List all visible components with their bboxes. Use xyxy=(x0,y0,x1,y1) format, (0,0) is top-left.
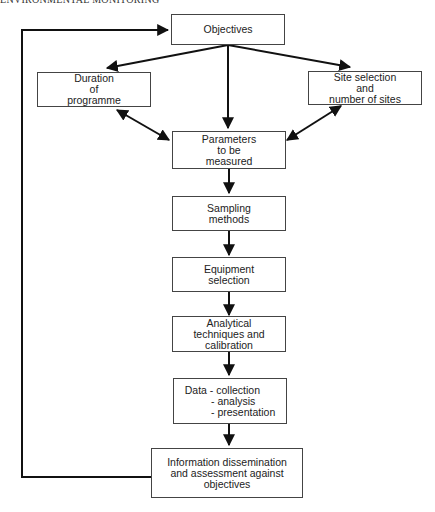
node-label: Parameters to be measured xyxy=(202,134,256,167)
node-information: Information dissemination and assessment… xyxy=(151,448,303,498)
double-arrow-site-parameters xyxy=(287,106,341,140)
node-label: Equipment selection xyxy=(204,264,254,286)
node-equipment: Equipment selection xyxy=(172,257,286,292)
node-label: Objectives xyxy=(203,24,252,35)
node-label: Duration of programme xyxy=(67,73,121,106)
node-analytical: Analytical techniques and calibration xyxy=(172,316,286,352)
node-duration: Duration of programme xyxy=(37,72,151,107)
node-site-selection: Site selection and number of sites xyxy=(308,71,422,105)
node-label: Site selection and number of sites xyxy=(329,72,401,105)
arrow-objectives-duration xyxy=(107,45,228,68)
node-objectives: Objectives xyxy=(171,14,285,45)
node-sampling: Sampling methods xyxy=(172,196,286,231)
node-label: Data - collection - analysis - presentat… xyxy=(185,385,275,418)
node-parameters: Parameters to be measured xyxy=(172,131,286,169)
arrow-objectives-site xyxy=(228,45,350,67)
node-label: Sampling methods xyxy=(207,203,251,225)
node-label: Analytical techniques and calibration xyxy=(193,318,264,351)
node-label: Information dissemination and assessment… xyxy=(167,457,287,490)
double-arrow-duration-parameters xyxy=(117,110,169,140)
node-data: Data - collection - analysis - presentat… xyxy=(173,378,287,424)
